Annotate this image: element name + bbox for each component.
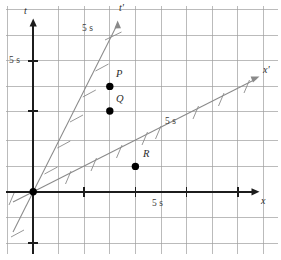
x-prime-axis-label: x' — [263, 65, 270, 75]
event-point-p-label: P — [116, 69, 122, 80]
x-prime-tick — [219, 93, 225, 106]
x-axis-five-seconds-label: 5 s — [152, 199, 163, 209]
x-prime-tick — [9, 192, 15, 205]
t-axis-five-seconds-label: 5 s — [9, 56, 20, 66]
t-prime-axis-arrowhead — [114, 20, 121, 28]
x-prime-tick — [142, 132, 148, 145]
t-prime-axis-line — [13, 24, 118, 232]
x-axis-arrowhead — [252, 188, 260, 195]
x-prime-axis-arrowhead — [251, 76, 260, 82]
origin-point — [30, 188, 37, 195]
primed-frame-axes — [9, 20, 260, 237]
x-prime-tick — [91, 158, 97, 171]
t-prime-tick — [57, 141, 70, 148]
t-axis-arrowhead — [30, 19, 37, 27]
t-prime-tick — [83, 90, 96, 97]
t-prime-tick — [45, 167, 58, 174]
x-axis-label: x — [261, 196, 265, 206]
event-point-r[interactable] — [132, 163, 139, 170]
grid-lines — [6, 6, 278, 254]
t-prime-axis-ticks — [11, 32, 122, 237]
x-prime-tick — [117, 145, 123, 158]
event-point-q-label: Q — [116, 94, 124, 105]
t-prime-axis-label: t' — [119, 3, 124, 13]
t-prime-axis-five-seconds-label: 5 s — [82, 24, 93, 34]
event-point-p[interactable] — [106, 83, 113, 90]
diagram-canvas — [0, 0, 281, 260]
x-prime-tick — [193, 106, 199, 119]
spacetime-diagram: t x t' x' 5 s 5 s 5 s 5 s P Q R — [0, 0, 281, 260]
t-axis-label: t — [24, 6, 27, 16]
event-point-r-label: R — [143, 149, 149, 160]
x-prime-axis-five-seconds-label: 5 s — [165, 117, 176, 127]
t-prime-tick — [70, 115, 83, 122]
x-prime-tick — [66, 171, 72, 184]
unprimed-frame-axes — [6, 19, 260, 255]
event-point-q[interactable] — [106, 107, 113, 114]
